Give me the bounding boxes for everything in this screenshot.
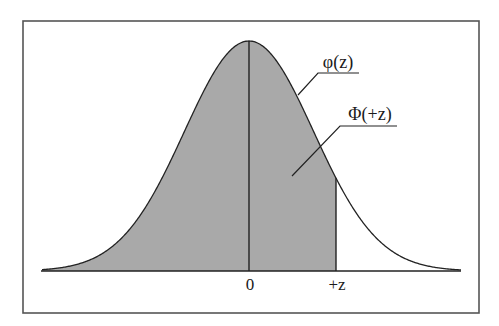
shaded-cumulative-area	[42, 41, 336, 271]
tick-label-zero: 0	[246, 275, 255, 294]
pdf-label: φ(z)	[323, 52, 353, 73]
cdf-label: Φ(+z)	[348, 104, 391, 125]
pdf-leader-line	[298, 73, 359, 95]
tick-label-plus-z: +z	[328, 275, 346, 294]
figure-canvas: 0 +z φ(z) Φ(+z)	[0, 0, 499, 326]
pdf-annotation: φ(z)	[298, 52, 359, 95]
normal-distribution-figure: 0 +z φ(z) Φ(+z)	[0, 0, 499, 326]
